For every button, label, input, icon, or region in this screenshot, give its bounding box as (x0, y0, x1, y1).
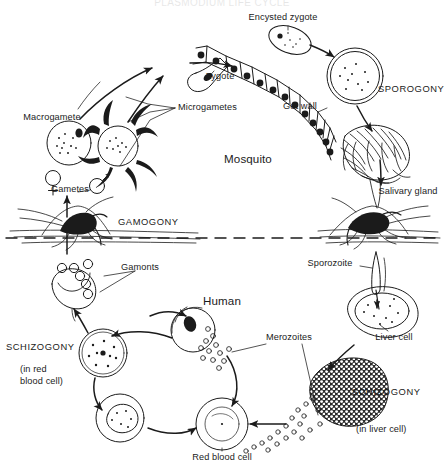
label-schizogony-rbc: SCHIZOGONY (6, 342, 75, 353)
label-macrogamete: Macrogamete (23, 112, 80, 122)
label-schizogony-liver: SCHIZOGONY (352, 387, 421, 398)
sporozoite-cell (372, 252, 386, 309)
label-merozoites: Merozoites (266, 332, 312, 342)
label-salivary-gland: Salivary gland (378, 186, 437, 196)
blood-schizont (79, 329, 127, 377)
label-schizogony-liver-sub: (in liver cell) (356, 424, 407, 434)
label-gametes: Gametes (51, 184, 89, 194)
label-liver-cell: Liver cell (375, 332, 412, 342)
label-sporozoite: Sporozoite (308, 258, 353, 268)
figure-title: PLASMODIUM LIFE CYCLE (154, 0, 290, 8)
label-zygote: Zygote (206, 71, 235, 81)
label-schizogony-rbc-sub-2: blood cell) (20, 376, 63, 386)
label-region-mosquito: Mosquito (224, 152, 272, 165)
mature-oocyst (327, 48, 383, 104)
trophozoite-in-red-blood-cell (96, 394, 144, 442)
gamont-circles (57, 259, 92, 298)
label-gut-wall: Gut wall (283, 101, 317, 111)
mosquito-right-biting (318, 198, 440, 249)
gametocyte-crescent (52, 269, 96, 321)
encysted-zygote-oocyst (265, 20, 315, 59)
label-microgametes: Microgametes (178, 102, 237, 112)
plasmodium-life-cycle-figure: PLASMODIUM LIFE CYCLE Encysted zygote Zy… (0, 0, 445, 470)
label-schizogony-rbc-sub-1: (in red (20, 364, 47, 374)
label-red-blood-cell: Red blood cell (192, 452, 252, 462)
label-encysted-zygote: Encysted zygote (249, 12, 318, 22)
label-gamogony: GAMOGONY (118, 217, 179, 228)
infected-rbc-releasing-merozoites (171, 307, 231, 370)
liver-cell (348, 287, 419, 338)
label-sporogony: SPOROGONY (378, 84, 444, 95)
label-gamonts: Gamonts (121, 262, 159, 272)
label-region-human: Human (203, 294, 241, 307)
gamete-symbol-male (90, 173, 111, 194)
red-blood-cell (196, 398, 248, 450)
